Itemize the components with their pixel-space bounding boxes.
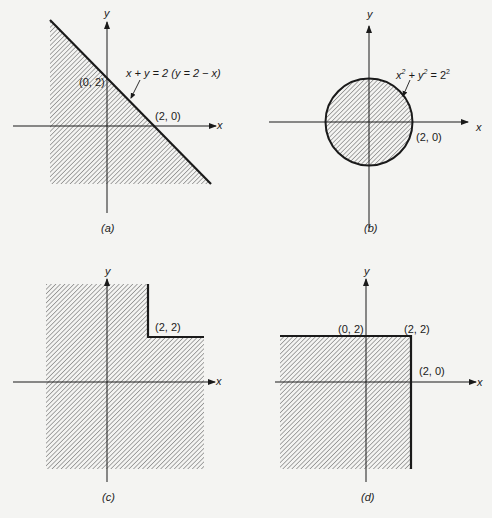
pointer-arrow-b: [403, 80, 410, 96]
point-label-2-0-d: (2, 0): [419, 366, 445, 377]
panel-d: [275, 279, 476, 482]
eq-sq3: 2: [446, 68, 450, 75]
y-axis-label-d: y: [364, 266, 370, 277]
caption-a: (a): [101, 223, 114, 234]
x-axis-label-d: x: [477, 377, 483, 388]
y-axis-label-c: y: [105, 266, 111, 277]
y-axis-label-a: y: [104, 8, 110, 19]
eq-mid: + y: [405, 69, 423, 81]
shaded-region-d: [280, 336, 411, 469]
caption-b: (b): [364, 223, 377, 234]
equation-label-b: x2 + y2 = 22: [396, 68, 450, 81]
caption-c: (c): [102, 492, 115, 503]
x-axis-label-a: x: [217, 120, 223, 131]
panel-c: [13, 279, 215, 482]
panel-a: [13, 20, 216, 213]
point-label-2-2-c: (2, 2): [155, 322, 181, 333]
pointer-arrow-a: [131, 80, 140, 98]
point-label-0-2-d: (0, 2): [338, 324, 364, 335]
shaded-region-c: [46, 284, 204, 469]
point-label-2-0-a: (2, 0): [155, 111, 181, 122]
equation-label-a: x + y = 2 (y = 2 − x): [126, 68, 221, 79]
figure-canvas: y x (0, 2) x + y = 2 (y = 2 − x) (2, 0) …: [0, 0, 492, 518]
point-label-0-2-a: (0, 2): [79, 77, 105, 88]
x-axis-label-b: x: [476, 122, 482, 133]
x-axis-label-c: x: [216, 376, 222, 387]
y-axis-label-b: y: [367, 9, 373, 20]
caption-d: (d): [361, 492, 374, 503]
point-label-2-2-d: (2, 2): [404, 324, 430, 335]
eq-eq: = 2: [427, 69, 446, 81]
point-label-2-0-b: (2, 0): [416, 132, 442, 143]
panel-b: [269, 26, 468, 228]
